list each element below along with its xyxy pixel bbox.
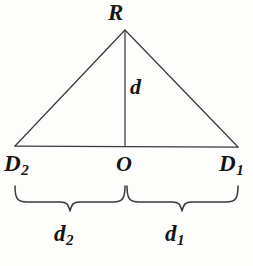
left-span-label-base: d	[54, 221, 66, 246]
diagram-canvas	[0, 0, 253, 266]
right-span-brace	[127, 186, 238, 211]
origin-label-o: O	[116, 153, 132, 175]
triangle-right-side	[125, 30, 238, 147]
left-vertex-label-base: D	[4, 151, 21, 176]
right-span-label-subscript: 1	[177, 232, 185, 247]
right-vertex-label-subscript: 1	[236, 162, 244, 177]
right-span-label-base: d	[165, 221, 177, 246]
triangle-left-side	[15, 30, 125, 146]
triangle-distance-diagram: R D2 O D1 d d2 d1	[0, 0, 253, 266]
apex-label-r: R	[108, 1, 123, 24]
right-vertex-label-base: D	[219, 151, 236, 176]
altitude-label-d: d	[130, 76, 141, 98]
right-vertex-label-d1: D1	[219, 152, 244, 177]
left-span-brace	[15, 186, 125, 211]
left-span-label-d2: d2	[54, 222, 74, 247]
right-span-label-d1: d1	[165, 222, 185, 247]
left-vertex-label-d2: D2	[4, 152, 29, 177]
left-span-label-subscript: 2	[66, 232, 74, 247]
left-vertex-label-subscript: 2	[21, 162, 29, 177]
triangle-base	[15, 146, 238, 147]
